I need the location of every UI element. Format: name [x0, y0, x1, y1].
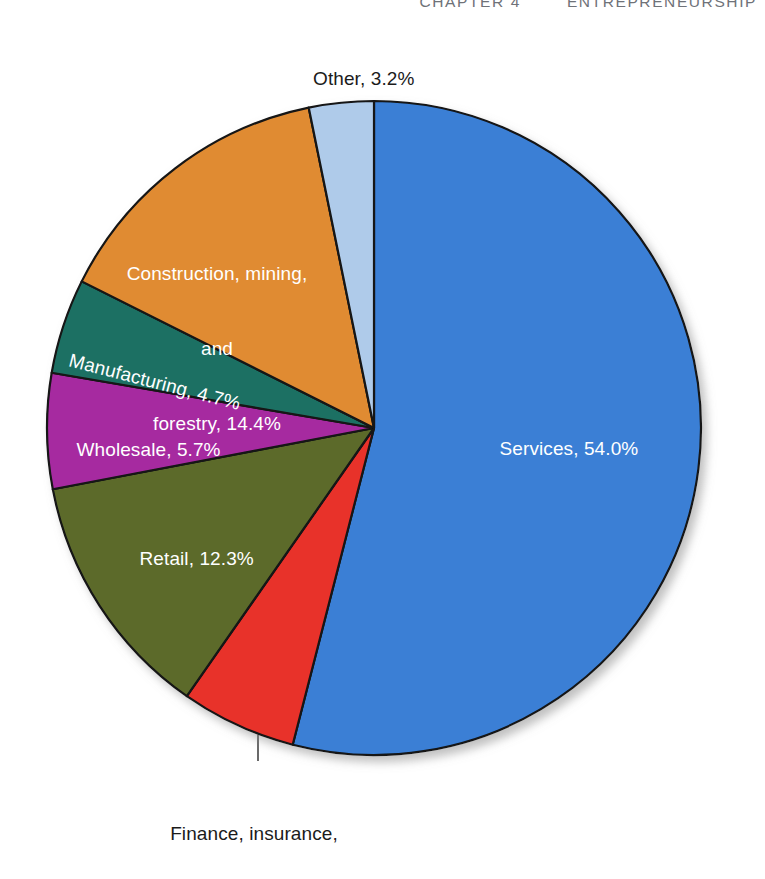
- slice-label-retail-text: Retail, 12.3%: [140, 548, 254, 569]
- slice-label-wholesale: Wholesale, 5.7%: [55, 412, 275, 487]
- slice-label-retail: Retail, 12.3%: [118, 521, 318, 596]
- slice-label-finance: Finance, insurance, information, and rea…: [104, 771, 404, 879]
- slice-label-other: Other, 3.2%: [268, 41, 438, 116]
- slice-label-wholesale-text: Wholesale, 5.7%: [77, 439, 221, 460]
- pie-chart: Other, 3.2% Construction, mining, and fo…: [0, 0, 765, 879]
- slice-label-other-text: Other, 3.2%: [313, 68, 414, 89]
- slice-label-services-text: Services, 54.0%: [500, 438, 639, 459]
- slice-label-manufacturing-text: Manufacturing, 4.7%: [67, 350, 243, 414]
- slice-label-services: Services, 54.0%: [478, 411, 678, 486]
- slice-label-construction-line1: Construction, mining,: [108, 261, 326, 286]
- slice-label-finance-line1: Finance, insurance,: [104, 821, 404, 846]
